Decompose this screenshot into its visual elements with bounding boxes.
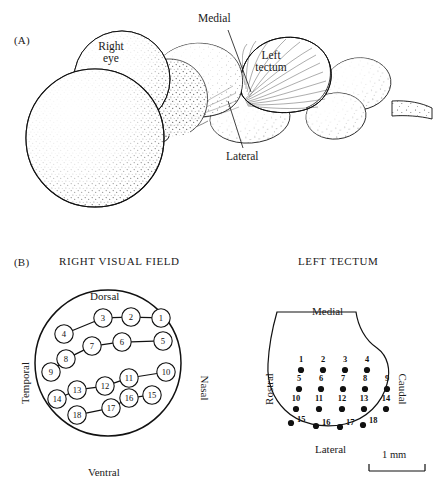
label-left-tectum-line1: Left [246,49,296,61]
tectum-dot-marker [360,422,366,428]
tectum-dot-label: 2 [321,355,325,364]
panel-b-letter: (B) [14,256,29,268]
right-visual-field-title: RIGHT VISUAL FIELD [59,255,180,267]
tectum-axis-caudal: Caudal [397,367,409,411]
scale-bar-graphic [367,462,431,476]
label-right-eye-line2: eye [86,52,136,64]
tectum-dot-label: 1 [299,355,303,364]
tectum-dot-label: 9 [385,374,389,383]
visual-field-node-label: 13 [73,385,82,395]
visual-field-node-label: 18 [73,410,82,420]
visual-field-edge [138,396,143,397]
visual-field-node-label: 9 [49,367,53,377]
axis-ventral: Ventral [88,466,120,478]
tectum-dot-label: 12 [338,394,346,403]
visual-field-node[interactable]: 4 [55,325,73,343]
tectum-dot-label: 15 [297,415,305,424]
visual-field-diagram: 123456789101112131415161718 [0,282,220,492]
visual-field-node[interactable]: 17 [102,399,120,417]
visual-field-node[interactable]: 13 [68,381,86,399]
tectum-axis-lateral: Lateral [315,443,346,455]
label-right-eye: Right eye [86,40,136,64]
tectum-dot-marker [384,386,390,392]
tectum-dot[interactable]: 18 [360,416,377,428]
tectum-dot-label: 18 [369,416,377,425]
left-tectum-title: LEFT TECTUM [298,255,378,267]
tectum-outline [268,312,389,426]
tectum-dot-label: 10 [292,394,300,403]
visual-field-node[interactable]: 18 [68,406,86,424]
visual-field-node[interactable]: 2 [122,308,140,326]
tectum-dot-marker [340,386,346,392]
tectum-dot-marker [337,424,343,430]
visual-field-node-label: 16 [125,393,134,403]
tectum-dot-label: 11 [315,394,323,403]
tectum-dot[interactable]: 14 [382,394,391,412]
visual-field-node[interactable]: 3 [94,309,112,327]
visual-field-edge [131,341,154,342]
visual-field-node[interactable]: 14 [48,390,66,408]
visual-field-node-label: 11 [125,373,133,383]
visual-field-node[interactable]: 11 [120,369,138,387]
label-left-tectum-line2: tectum [246,61,296,73]
visual-field-node[interactable]: 1 [152,309,170,327]
scale-bar-label: 1 mm [382,449,406,460]
tectum-dot-marker [361,406,367,412]
axis-dorsal: Dorsal [90,290,119,302]
visual-field-node[interactable]: 12 [96,377,114,395]
tectum-dot-marker [383,406,389,412]
tectum-dot-marker [298,367,304,373]
spinal-cord-shape [392,101,432,119]
tectum-dot[interactable]: 15 [288,415,305,426]
visual-field-node[interactable]: 10 [157,363,175,381]
tectum-dot-label: 16 [322,418,330,427]
axis-nasal: Nasal [199,368,211,408]
visual-field-node[interactable]: 5 [154,332,172,350]
visual-field-node[interactable]: 16 [120,389,138,407]
tectum-dot-label: 14 [382,394,391,403]
panel-a-letter: (A) [14,34,30,46]
figure-root: (A) Right eye Medial Left tectum Lateral… [0,0,434,492]
tectum-axis-medial: Medial [312,305,343,317]
tectum-dot-marker [288,420,294,426]
axis-temporal: Temporal [19,357,31,409]
visual-field-node-label: 5 [161,336,165,346]
tectum-axis-rostral: Rostral [263,366,275,412]
tectum-dot-label: 13 [360,394,368,403]
visual-field-node-label: 3 [101,313,105,323]
visual-field-node[interactable]: 6 [113,333,131,351]
visual-field-node-label: 4 [62,329,67,339]
visual-field-node[interactable]: 8 [57,350,75,368]
tectum-dot-marker [318,386,324,392]
visual-field-node-label: 15 [148,390,157,400]
visual-field-node-label: 1 [159,313,163,323]
tectum-dot-marker [342,367,348,373]
visual-field-node-label: 10 [162,367,171,377]
tectum-dot-label: 17 [346,418,354,427]
tectum-dot-label: 5 [297,374,301,383]
visual-field-node-label: 14 [53,394,62,404]
tectum-outline-group [268,312,389,426]
label-right-eye-line1: Right [86,40,136,52]
tectum-dot-marker [313,423,319,429]
tectum-dot-marker [320,367,326,373]
visual-field-node[interactable]: 7 [83,337,101,355]
visual-field-node-label: 7 [90,341,95,351]
visual-field-node-label: 6 [120,337,125,347]
tectum-dot-marker [293,406,299,412]
tectum-dot-marker [339,406,345,412]
tectum-dot-label: 6 [319,374,323,383]
tectum-dot-marker [364,367,370,373]
right-eye-lower [26,69,164,207]
visual-field-node-label: 17 [107,403,116,413]
visual-field-node-label: 12 [101,381,110,391]
label-lateral: Lateral [226,150,259,162]
tectum-dot-label: 3 [343,355,347,364]
tectum-dot-marker [362,386,368,392]
tectum-dot-marker [316,406,322,412]
visual-field-node[interactable]: 15 [143,386,161,404]
visual-field-node-label: 8 [64,354,68,364]
visual-field-node[interactable]: 9 [42,363,60,381]
tectum-dot-label: 8 [363,374,367,383]
visual-field-node-label: 2 [129,312,133,322]
